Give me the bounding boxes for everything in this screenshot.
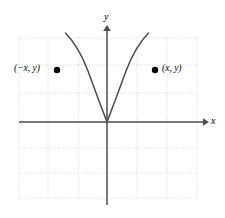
y-axis-label: y	[104, 12, 108, 22]
graph-canvas	[0, 0, 225, 218]
right-point-marker	[152, 67, 158, 73]
left-point-label: (−x, y)	[14, 64, 40, 74]
left-point-marker	[54, 67, 60, 73]
parabola-figure: y x (−x, y) (x, y)	[0, 0, 225, 218]
right-point-label: (x, y)	[162, 64, 182, 74]
x-axis-label: x	[211, 116, 215, 126]
